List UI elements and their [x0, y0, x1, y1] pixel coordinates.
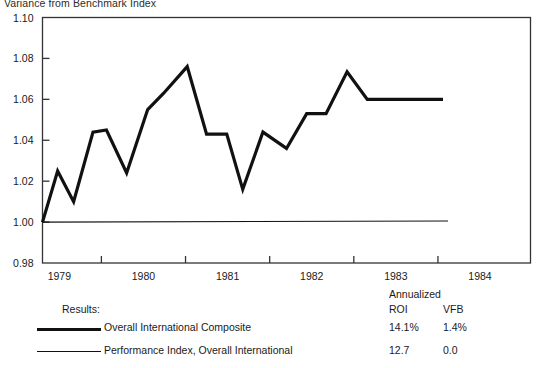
- y-tick-label: 1.00: [13, 216, 34, 228]
- legend-results-label: Results:: [62, 303, 100, 315]
- x-tick-label: 1983: [384, 270, 408, 282]
- data-series-group: [43, 67, 449, 222]
- line-chart-svg: 0.981.001.021.041.061.081.10 19791980198…: [0, 0, 547, 300]
- y-tick-label: 1.08: [13, 52, 34, 64]
- plot-frame: [43, 18, 531, 264]
- y-axis-labels: 0.981.001.021.041.061.081.10: [13, 12, 34, 270]
- legend-swatch-performance-index: [37, 351, 101, 352]
- legend-vfb-performance-index: 0.0: [443, 344, 458, 356]
- legend-annualized-header: Annualized: [389, 288, 441, 300]
- x-tick-label: 1984: [468, 270, 492, 282]
- x-tick-label: 1982: [300, 270, 324, 282]
- legend-roi-composite: 14.1%: [389, 321, 419, 333]
- x-tick-label: 1979: [48, 270, 72, 282]
- legend-label-performance-index: Performance Index, Overall International: [104, 344, 293, 356]
- y-tick-label: 1.02: [13, 175, 34, 187]
- y-tick-label: 1.04: [13, 134, 34, 146]
- x-axis-ticks: [101, 256, 438, 263]
- x-axis-labels: 197919801981198219831984: [48, 270, 492, 282]
- legend-roi-header: ROI: [389, 303, 408, 315]
- x-tick-label: 1981: [216, 270, 240, 282]
- x-tick-label: 1980: [132, 270, 156, 282]
- y-tick-label: 1.06: [13, 93, 34, 105]
- y-tick-label: 1.10: [13, 12, 34, 24]
- series-line-performance-index: [43, 221, 449, 222]
- y-tick-label: 0.98: [13, 257, 34, 269]
- plot-area: 0.981.001.021.041.061.081.10 19791980198…: [0, 0, 547, 300]
- legend-vfb-header: VFB: [443, 303, 463, 315]
- legend-vfb-composite: 1.4%: [443, 321, 467, 333]
- legend-swatch-composite: [37, 328, 101, 331]
- series-line-composite: [43, 67, 444, 222]
- legend-label-composite: Overall International Composite: [104, 321, 251, 333]
- chart-legend: Annualized Results: ROI VFB Overall Inte…: [0, 288, 547, 368]
- legend-roi-performance-index: 12.7: [389, 344, 409, 356]
